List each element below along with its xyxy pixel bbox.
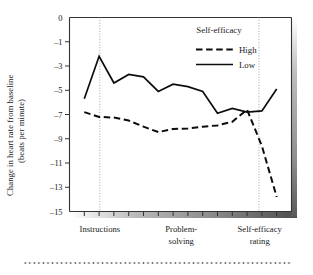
chart-legend: Self-efficacy High Low <box>196 25 257 70</box>
x-axis-category-labels: InstructionsProblem-solvingSelf-efficacy… <box>80 224 283 246</box>
x-category-label-0: Instructions <box>80 224 121 234</box>
series-line-high <box>84 110 276 197</box>
footer-dotted-rule <box>23 259 291 265</box>
y-tick-label-7: –13 <box>49 183 63 192</box>
data-series-group <box>84 56 276 197</box>
y-tick-label-4: –7 <box>53 111 62 120</box>
legend-label-high: High <box>239 45 257 55</box>
heart-rate-line-chart: 0–1–3–5–7–9–11–13–15 Change in heart rat… <box>0 0 313 275</box>
phase-divider-lines <box>100 18 259 212</box>
y-tick-label-1: –1 <box>53 38 62 47</box>
x-category-label-1: Problem- <box>165 224 197 234</box>
y-tick-label-2: –3 <box>53 62 62 71</box>
x-category-label-1-line2: solving <box>169 236 195 246</box>
y-tick-label-3: –5 <box>53 86 62 95</box>
x-category-label-2-line2: rating <box>250 236 271 246</box>
y-axis-title: Change in heart rate from baseline (beat… <box>5 75 26 196</box>
legend-label-low: Low <box>239 60 256 70</box>
plot-axes <box>70 18 292 212</box>
y-tick-label-5: –9 <box>53 135 62 144</box>
y-tick-label-0: 0 <box>58 14 62 23</box>
figure-container: 0–1–3–5–7–9–11–13–15 Change in heart rat… <box>0 0 313 275</box>
y-tick-label-8: –15 <box>49 208 63 217</box>
legend-title: Self-efficacy <box>196 25 242 35</box>
panel-shadow-bottom <box>70 212 297 218</box>
y-axis-title-line2: (beats per minute) <box>16 99 26 163</box>
x-category-label-2: Self-efficacy <box>238 224 283 234</box>
y-axis-tick-labels: 0–1–3–5–7–9–11–13–15 <box>49 14 63 217</box>
y-axis-title-line1: Change in heart rate from baseline <box>5 75 15 196</box>
y-tick-label-6: –11 <box>49 159 62 168</box>
y-axis-ticks <box>65 42 70 188</box>
